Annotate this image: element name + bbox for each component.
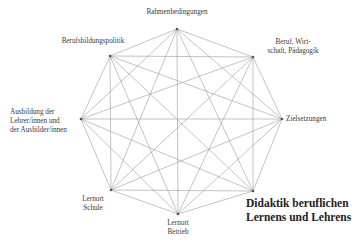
connection-line	[177, 29, 253, 191]
connection-line	[110, 56, 253, 57]
connection-line	[110, 56, 282, 119]
node-didaktik	[252, 190, 255, 193]
label-zielsetzungen: Zielsetzungen	[286, 115, 326, 124]
label-line: Betrieb	[163, 228, 193, 237]
label-line: Lernort	[78, 195, 108, 204]
label-line: Beruf, Wirt-	[258, 38, 328, 47]
node-zielsetzungen	[281, 118, 284, 121]
label-line: Rahmenbedingungen	[146, 8, 207, 16]
label-rahmenbedingungen: Rahmenbedingungen	[137, 8, 217, 17]
node-lernort-schule	[110, 189, 113, 192]
label-berufsbildungspolitik: Berufsbildungspolitik	[48, 37, 138, 46]
label-line: Lernort	[163, 219, 193, 228]
node-beruf-wirtschaft-paedagogik	[252, 56, 255, 59]
label-line: Lehrer/innen und	[10, 117, 67, 126]
node-ausbildung	[80, 118, 83, 121]
label-beruf-wirtschaft-paedagogik: Beruf, Wirt- schaft, Pädagogik	[258, 38, 328, 56]
node-lernort-betrieb	[177, 213, 180, 216]
label-line: Zielsetzungen	[286, 115, 326, 123]
connection-line	[178, 191, 253, 214]
label-line: schaft, Pädagogik	[258, 47, 328, 56]
label-lernort-betrieb: Lernort Betrieb	[163, 219, 193, 237]
title-line-1: Didaktik beruflichen	[246, 196, 351, 210]
label-line: Ausbildung der	[10, 108, 67, 117]
label-line: Schule	[78, 204, 108, 213]
connection-line	[111, 190, 178, 214]
label-ausbildung: Ausbildung der Lehrer/innen und der Ausb…	[10, 108, 67, 135]
label-line: der Ausbilder/innen	[10, 126, 67, 135]
diagram-title: Didaktik beruflichen Lernens und Lehrens	[246, 196, 351, 224]
connection-line	[81, 56, 110, 119]
title-line-2: Lernens und Lehrens	[246, 210, 351, 224]
connection-line	[111, 119, 282, 190]
connection-line	[110, 56, 111, 190]
connection-line	[111, 190, 253, 191]
node-berufsbildungspolitik	[109, 55, 112, 58]
node-rahmenbedingungen	[176, 28, 179, 31]
label-lernort-schule: Lernort Schule	[78, 195, 108, 213]
connection-line	[253, 119, 282, 191]
label-line: Berufsbildungspolitik	[62, 37, 125, 45]
